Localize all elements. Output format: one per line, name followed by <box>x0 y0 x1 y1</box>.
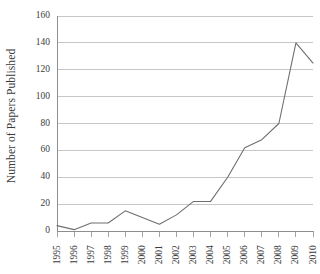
gridlines <box>57 16 313 204</box>
y-axis-tick-label: 100 <box>16 92 54 102</box>
x-axis-tick-label: 2002 <box>169 237 183 271</box>
y-axis-tick-label: 20 <box>16 199 54 209</box>
line-chart: Number of Papers Published 0204060801001… <box>0 0 320 274</box>
x-axis-tick-label: 2004 <box>204 237 218 271</box>
x-axis-tick-label: 2000 <box>135 237 149 271</box>
x-axis-tick-label: 2003 <box>187 237 201 271</box>
y-axis-tick-label: 0 <box>16 226 54 236</box>
x-axis-tick-label: 1996 <box>67 237 81 271</box>
x-axis-tick-label: 1997 <box>84 237 98 271</box>
y-axis-tick-label: 160 <box>16 11 54 21</box>
x-axis-tick-label: 2008 <box>272 237 286 271</box>
x-axis-tick-label: 1998 <box>101 237 115 271</box>
y-axis-tick-label: 120 <box>16 65 54 75</box>
plot-svg <box>57 16 313 231</box>
x-axis-tick-label: 2010 <box>306 237 320 271</box>
y-axis-tick-label: 80 <box>16 119 54 129</box>
y-axis-tick-label: 140 <box>16 38 54 48</box>
x-axis-tick-label: 2007 <box>255 237 269 271</box>
x-axis-tick-label: 2006 <box>238 237 252 271</box>
y-axis-tick-label: 60 <box>16 146 54 156</box>
y-axis-tick-labels: 020406080100120140160 <box>16 0 54 232</box>
x-axis-tick-label: 2009 <box>289 237 303 271</box>
x-axis-tick-label: 1999 <box>118 237 132 271</box>
data-series-line <box>57 43 313 230</box>
x-axis-tick-labels: 1995199619971998199920002001200220032004… <box>57 237 313 274</box>
x-axis-tick-label: 2001 <box>152 237 166 271</box>
y-axis-tick-label: 40 <box>16 173 54 183</box>
plot-area <box>57 16 313 231</box>
x-axis-tick-label: 2005 <box>221 237 235 271</box>
x-axis-tick-label: 1995 <box>50 237 64 271</box>
